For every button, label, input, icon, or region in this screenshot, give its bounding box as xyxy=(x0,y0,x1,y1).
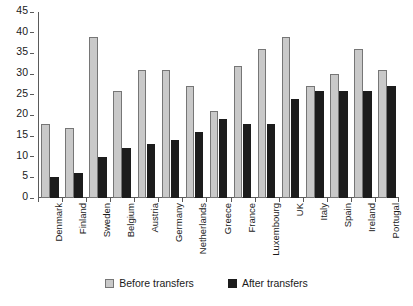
x-axis-tick-mark xyxy=(279,198,280,202)
x-axis-tick-mark xyxy=(38,198,39,202)
legend-label: Before transfers xyxy=(119,278,194,289)
y-axis-tick-label: 40 xyxy=(16,26,28,37)
bar-before-transfers xyxy=(330,74,339,198)
bar-group xyxy=(282,12,300,198)
bar-group xyxy=(186,12,204,198)
y-axis-tick-mark xyxy=(30,177,34,178)
x-axis-tick-mark xyxy=(206,198,207,202)
chart-legend: Before transfersAfter transfers xyxy=(0,278,413,289)
x-axis-label: Italy xyxy=(319,203,329,220)
bar-after-transfers xyxy=(219,119,228,198)
bar-before-transfers xyxy=(41,124,50,198)
bar-after-transfers xyxy=(267,124,276,198)
legend-swatch-before xyxy=(105,279,114,288)
x-axis-label: Sweden xyxy=(102,203,112,237)
bar-after-transfers xyxy=(315,91,324,198)
bar-after-transfers xyxy=(387,86,396,198)
x-axis-tick-mark xyxy=(255,198,256,202)
x-axis-tick-mark xyxy=(398,198,399,202)
bar-group xyxy=(162,12,180,198)
y-axis-tick-label: 30 xyxy=(16,67,28,78)
bar-before-transfers xyxy=(354,49,363,198)
x-axis-label: Belgium xyxy=(126,203,136,237)
bar-before-transfers xyxy=(282,37,291,198)
y-axis-tick-mark xyxy=(30,12,34,13)
x-axis-label: Portugal xyxy=(391,203,401,238)
y-axis-tick-mark xyxy=(30,156,34,157)
bar-after-transfers xyxy=(243,124,252,198)
bar-group xyxy=(138,12,156,198)
x-axis-label: Germany xyxy=(174,203,184,242)
bar-group xyxy=(65,12,83,198)
y-axis-tick-mark xyxy=(30,53,34,54)
bar-group xyxy=(41,12,59,198)
x-axis-ticks xyxy=(38,198,399,202)
x-axis-label: Ireland xyxy=(367,203,377,232)
y-axis-tick-label: 10 xyxy=(16,150,28,161)
y-axis-tick-mark xyxy=(30,136,34,137)
legend-item: Before transfers xyxy=(105,278,194,289)
bar-after-transfers xyxy=(339,91,348,198)
bar-group xyxy=(113,12,131,198)
y-axis-tick-mark xyxy=(30,74,34,75)
y-axis-tick-label: 20 xyxy=(16,108,28,119)
bar-after-transfers xyxy=(147,144,156,198)
bar-before-transfers xyxy=(65,128,74,198)
bar-before-transfers xyxy=(138,70,147,198)
bar-group xyxy=(258,12,276,198)
bar-before-transfers xyxy=(234,66,243,198)
bar-before-transfers xyxy=(113,91,122,198)
x-axis-label: Denmark xyxy=(54,203,64,242)
x-axis-label: France xyxy=(247,203,257,233)
x-axis-tick-mark xyxy=(86,198,87,202)
x-axis-tick-mark xyxy=(110,198,111,202)
bar-group xyxy=(234,12,252,198)
bars-layer xyxy=(38,12,399,198)
y-axis-tick-mark xyxy=(30,115,34,116)
bar-after-transfers xyxy=(195,132,204,198)
x-axis-tick-mark xyxy=(62,198,63,202)
bar-group xyxy=(330,12,348,198)
x-axis-label: Greece xyxy=(223,203,233,234)
bar-after-transfers xyxy=(122,148,131,198)
x-axis-tick-mark xyxy=(327,198,328,202)
legend-swatch-after xyxy=(228,279,237,288)
y-axis-tick-label: 0 xyxy=(22,191,28,202)
y-axis-tick-mark xyxy=(30,198,34,199)
x-axis-label: UK xyxy=(295,203,305,216)
bar-after-transfers xyxy=(363,91,372,198)
y-axis: 051015202530354045 xyxy=(0,12,34,198)
x-axis-label: Finland xyxy=(78,203,88,234)
bar-before-transfers xyxy=(186,86,195,198)
bar-after-transfers xyxy=(291,99,300,198)
x-axis-tick-mark xyxy=(231,198,232,202)
y-axis-tick-mark xyxy=(30,94,34,95)
bar-before-transfers xyxy=(210,111,219,198)
x-axis-tick-mark xyxy=(134,198,135,202)
bar-group xyxy=(89,12,107,198)
x-axis-tick-mark xyxy=(303,198,304,202)
x-axis-tick-mark xyxy=(375,198,376,202)
bar-group xyxy=(306,12,324,198)
x-axis-label: Spain xyxy=(343,203,353,227)
x-axis-labels: DenmarkFinlandSwedenBelgiumAustriaGerman… xyxy=(38,203,399,271)
x-axis-tick-mark xyxy=(351,198,352,202)
x-axis-label: Netherlands xyxy=(198,203,208,254)
y-axis-tick-label: 5 xyxy=(22,170,28,181)
bar-before-transfers xyxy=(162,70,171,198)
bar-before-transfers xyxy=(306,86,315,198)
bar-before-transfers xyxy=(89,37,98,198)
x-axis-tick-mark xyxy=(182,198,183,202)
bar-before-transfers xyxy=(378,70,387,198)
x-axis-label: Austria xyxy=(150,203,160,233)
bar-after-transfers xyxy=(74,173,83,198)
bar-group xyxy=(210,12,228,198)
y-axis-tick-label: 15 xyxy=(16,129,28,140)
x-axis-label: Luxembourg xyxy=(271,203,281,256)
bar-after-transfers xyxy=(98,157,107,198)
legend-item: After transfers xyxy=(228,278,308,289)
bar-group xyxy=(354,12,372,198)
y-axis-tick-mark xyxy=(30,32,34,33)
y-axis-tick-label: 25 xyxy=(16,88,28,99)
bar-chart: 051015202530354045 DenmarkFinlandSwedenB… xyxy=(0,0,413,306)
